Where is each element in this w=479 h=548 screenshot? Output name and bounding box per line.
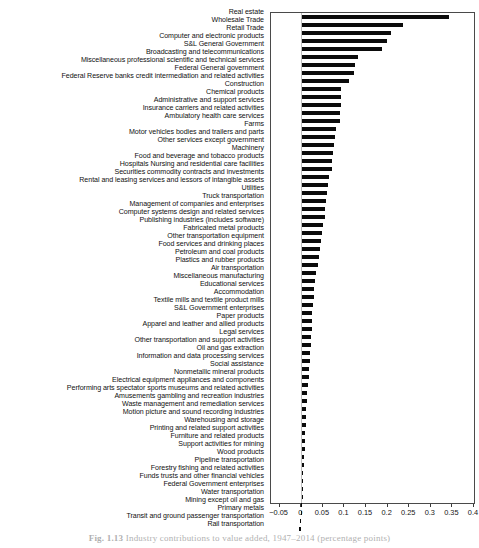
bar xyxy=(301,159,332,164)
category-label: Petroleum and coal products xyxy=(0,248,268,256)
category-label: Printing and related support activities xyxy=(0,424,268,432)
category-label: Other transportation equipment xyxy=(0,232,268,240)
bar xyxy=(301,399,307,404)
category-label: Utilities xyxy=(0,184,268,192)
category-label: Other services except government xyxy=(0,136,268,144)
category-label: Retail Trade xyxy=(0,24,268,32)
bar xyxy=(301,215,324,220)
category-label: Support activities for mining xyxy=(0,440,268,448)
bar xyxy=(301,383,307,388)
x-axis-tick-labels: −0.0500.050.10.150.20.250.30.350.4 xyxy=(270,508,475,520)
bar xyxy=(301,175,329,180)
bar xyxy=(301,335,311,340)
bar xyxy=(301,143,334,148)
bar xyxy=(301,327,311,332)
bar xyxy=(301,39,387,44)
bar xyxy=(301,247,320,252)
bar xyxy=(301,127,336,132)
x-tick-label: 0.15 xyxy=(358,508,372,517)
x-tick-label: 0.25 xyxy=(401,508,415,517)
category-label: Wholesale Trade xyxy=(0,16,268,24)
category-label: Plastics and rubber products xyxy=(0,256,268,264)
bar xyxy=(301,407,306,412)
bar xyxy=(301,207,325,212)
category-label: Warehousing and storage xyxy=(0,416,268,424)
bar xyxy=(301,351,310,356)
bar xyxy=(301,151,333,156)
bar xyxy=(301,271,316,276)
bar xyxy=(301,63,355,68)
x-tick-label: 0.1 xyxy=(338,508,348,517)
bar xyxy=(301,279,315,284)
category-label: S&L General Government xyxy=(0,40,268,48)
x-tick xyxy=(430,504,431,507)
bar xyxy=(301,87,341,92)
category-label: Federal Government enterprises xyxy=(0,480,268,488)
bar xyxy=(301,359,310,364)
category-label: Farms xyxy=(0,120,268,128)
bar xyxy=(301,423,305,428)
bar xyxy=(301,119,339,124)
category-label: Performing arts spectator sports museums… xyxy=(0,384,268,392)
category-label: Securities commodity contracts and inves… xyxy=(0,168,268,176)
bar xyxy=(301,231,322,236)
bar xyxy=(301,47,381,52)
category-label: Rental and leasing services and lessors … xyxy=(0,176,268,184)
bar xyxy=(301,103,341,108)
x-tick-label: 0 xyxy=(298,508,302,517)
figure-container: Real estateWholesale TradeRetail TradeCo… xyxy=(0,0,479,548)
chart-plot-area: Real estateWholesale TradeRetail TradeCo… xyxy=(0,8,479,516)
bar xyxy=(301,223,323,228)
bar xyxy=(301,367,309,372)
bar xyxy=(301,391,307,396)
category-label: Construction xyxy=(0,80,268,88)
bar xyxy=(301,79,349,84)
bar xyxy=(301,191,326,196)
x-tick-label: −0.05 xyxy=(269,508,288,517)
category-label: Motor vehicles bodies and trailers and p… xyxy=(0,128,268,136)
bar xyxy=(301,31,391,36)
bar xyxy=(301,239,321,244)
category-label: Amusements gambling and recreation indus… xyxy=(0,392,268,400)
bar xyxy=(301,343,311,348)
x-tick xyxy=(451,504,452,507)
category-label: Pipeline transportation xyxy=(0,456,268,464)
category-label: Furniture and related products xyxy=(0,432,268,440)
category-label: S&L Government enterprises xyxy=(0,304,268,312)
category-label: Broadcasting and telecommunications xyxy=(0,48,268,56)
category-label: Chemical products xyxy=(0,88,268,96)
x-tick xyxy=(365,504,366,507)
category-label: Hospitals Nursing and residential care f… xyxy=(0,160,268,168)
bar xyxy=(301,263,317,268)
bar xyxy=(301,255,319,260)
bar xyxy=(301,415,306,420)
zero-reference-line xyxy=(301,13,302,503)
category-label: Food and beverage and tobacco products xyxy=(0,152,268,160)
bar xyxy=(301,15,448,20)
category-label: Administrative and support services xyxy=(0,96,268,104)
category-label: Information and data processing services xyxy=(0,352,268,360)
category-label: Air transportation xyxy=(0,264,268,272)
bar xyxy=(301,303,313,308)
x-tick-label: 0.4 xyxy=(468,508,478,517)
category-label: Nonmetallic mineral products xyxy=(0,368,268,376)
category-label: Accommodation xyxy=(0,288,268,296)
x-tick xyxy=(322,504,323,507)
bar xyxy=(301,199,326,204)
x-tick xyxy=(473,504,474,507)
category-label: Insurance carriers and related activitie… xyxy=(0,104,268,112)
category-label: Computer and electronic products xyxy=(0,32,268,40)
category-label: Transit and ground passenger transportat… xyxy=(0,512,268,520)
category-label: Primary metals xyxy=(0,504,268,512)
bar xyxy=(301,295,314,300)
figure-caption: Fig. 1.13 Industry contributions to valu… xyxy=(0,533,479,543)
category-label: Social assistance xyxy=(0,360,268,368)
category-label: Federal Reserve banks credit intermediat… xyxy=(0,72,268,80)
category-label: Textile mills and textile product mills xyxy=(0,296,268,304)
category-label: Miscellaneous manufacturing xyxy=(0,272,268,280)
bar xyxy=(301,135,335,140)
bar xyxy=(301,287,314,292)
category-label: Federal General government xyxy=(0,64,268,72)
x-tick xyxy=(408,504,409,507)
category-label: Water transportation xyxy=(0,488,268,496)
